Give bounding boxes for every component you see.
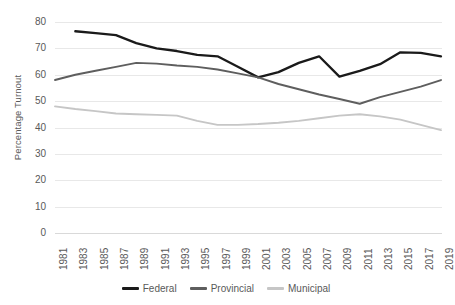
x-tick-label: 1981: [59, 248, 69, 270]
chart-legend: FederalProvincialMunicipal: [0, 283, 452, 294]
x-tick-label: 1993: [181, 248, 191, 270]
legend-label: Provincial: [211, 283, 254, 294]
x-tick-label: 1991: [161, 248, 171, 270]
legend-item-provincial[interactable]: Provincial: [190, 283, 254, 294]
x-tick-label: 2003: [282, 248, 292, 270]
x-tick-label: 2005: [303, 248, 313, 270]
legend-swatch-icon: [190, 287, 207, 290]
x-tick-label: 1997: [222, 248, 232, 270]
series-line-provincial: [55, 63, 441, 104]
x-tick-label: 1983: [79, 248, 89, 270]
x-tick-label: 2007: [323, 248, 333, 270]
legend-item-federal[interactable]: Federal: [122, 283, 177, 294]
legend-swatch-icon: [122, 287, 139, 290]
x-tick-label: 1987: [120, 248, 130, 270]
x-tick-label: 1985: [100, 248, 110, 270]
series-line-municipal: [55, 106, 441, 130]
x-tick-label: 2011: [364, 248, 374, 270]
x-tick-label: 2015: [404, 248, 414, 270]
legend-item-municipal[interactable]: Municipal: [267, 283, 330, 294]
x-tick-label: 1995: [201, 248, 211, 270]
series-line-federal: [75, 31, 441, 77]
x-tick-label: 2017: [425, 248, 435, 270]
x-tick-label: 2009: [343, 248, 353, 270]
legend-label: Municipal: [288, 283, 330, 294]
legend-swatch-icon: [267, 287, 284, 290]
x-tick-label: 2013: [384, 248, 394, 270]
x-tick-label: 2001: [262, 248, 272, 270]
x-tick-label: 1999: [242, 248, 252, 270]
x-tick-label: 1989: [140, 248, 150, 270]
legend-label: Federal: [143, 283, 177, 294]
x-tick-label: 2019: [445, 248, 455, 270]
